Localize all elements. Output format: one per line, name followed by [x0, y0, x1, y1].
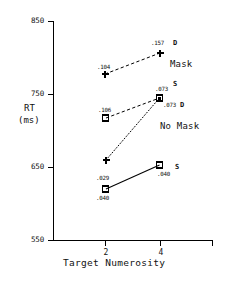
x-tick-label-4: 4 [154, 249, 168, 257]
x-tick-label-2: 2 [99, 249, 113, 257]
marker-square-converged-x4-inner [158, 97, 161, 100]
annotation-mask-different-x2: .104 [97, 65, 110, 71]
series-mask-different-line [105, 53, 160, 74]
group-label-mask: Mask [170, 60, 192, 69]
condition-letter-mask-different: D [173, 40, 177, 47]
series-mask-same-line [106, 98, 160, 160]
y-tick-label-750: 750 [22, 90, 44, 98]
marker-square-nomask-same-x2 [103, 186, 109, 192]
annotation-nomask-same-x2-upper: .029 [96, 176, 109, 182]
annotation-nomask-same-x2-lower: .040 [96, 196, 109, 202]
y-tick-label-650: 650 [22, 163, 44, 171]
annotation-mask-different-x4: .157 [151, 41, 164, 47]
annotation-nomask-different-x2: .106 [98, 108, 111, 114]
chart-figure: 850 750 650 550 RT (ms) 2 4 Target Numer… [0, 0, 236, 282]
marker-square-nomask-different-x2 [103, 115, 109, 121]
series-nomask-same-line [106, 165, 160, 189]
x-axis-title: Target Numerosity [63, 258, 165, 268]
annotation-nomask-different-x4: .073 [163, 103, 176, 109]
condition-letter-nomask-different: D [180, 102, 184, 109]
y-tick-label-850: 850 [22, 17, 44, 25]
y-tick-label-550: 550 [22, 236, 44, 244]
marker-plus-mask-different-x4 [157, 50, 164, 57]
y-axis-title-line1: RT [24, 104, 35, 113]
y-axis-title-line2: (ms) [18, 116, 40, 125]
marker-plus-mask-different-x2 [102, 71, 109, 78]
condition-letter-mask-same: S [173, 81, 177, 88]
annotation-nomask-same-x4: .040 [157, 172, 170, 178]
annotation-mask-same-x4: .073 [155, 87, 168, 93]
group-label-no-mask: No Mask [160, 122, 199, 131]
condition-letter-nomask-same: S [175, 164, 179, 171]
